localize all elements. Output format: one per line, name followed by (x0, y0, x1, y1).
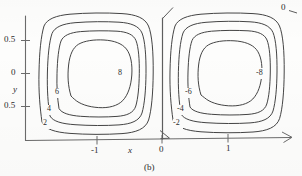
contour-label-2: 2 (43, 119, 47, 127)
y-axis-label: y (13, 85, 17, 94)
contour-label-4: 4 (47, 105, 51, 113)
negative-lobe-contours (170, 13, 284, 133)
origin-arrow-icon (160, 131, 170, 139)
contour-label-minus-4: -4 (177, 105, 184, 113)
y-axis-arrow-icon (163, 8, 173, 19)
contour-label-6: 6 (55, 88, 59, 96)
contour-label-minus-6: -6 (185, 88, 192, 96)
x-axis-line (26, 138, 292, 141)
contour-level-4 (47, 22, 146, 126)
zero-level-leader (256, 11, 297, 23)
contour-label-0: 0 (281, 3, 286, 12)
y-tick-label-0: 0 (11, 68, 16, 77)
y-tick-label-0.5: 0.5 (4, 35, 15, 44)
contour-level-6 (57, 31, 139, 117)
axis-group (21, 8, 292, 145)
positive-lobe-contours (39, 13, 153, 134)
figure-caption: (b) (144, 163, 155, 172)
contour-label-8: 8 (118, 69, 122, 77)
x-tick-label-minus1: -1 (91, 146, 99, 155)
contour-level-minus-8 (198, 41, 262, 106)
positive-label-gaps (43, 68, 127, 129)
y-tick-label-minus0.5: 0.5 (4, 101, 15, 110)
contour-label-minus-8: -8 (256, 69, 263, 77)
contour-figure: 0.5 0 0.5 y -1 0 1 x 8 6 4 2 -8 -6 -4 -2… (0, 0, 302, 176)
x-axis-label: x (128, 146, 132, 155)
contour-plot-canvas (0, 0, 302, 176)
x-tick-label-1: 1 (226, 144, 231, 153)
x-tick-label-0: 0 (159, 145, 164, 154)
contour-label-minus-2: -2 (173, 119, 180, 127)
